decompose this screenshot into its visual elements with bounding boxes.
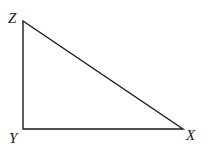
vertex-label-x: X bbox=[185, 127, 196, 143]
vertex-label-y: Y bbox=[9, 130, 19, 146]
triangle-diagram: Z Y X bbox=[0, 0, 212, 152]
triangle-xyz bbox=[23, 21, 183, 129]
vertex-label-z: Z bbox=[8, 10, 17, 26]
